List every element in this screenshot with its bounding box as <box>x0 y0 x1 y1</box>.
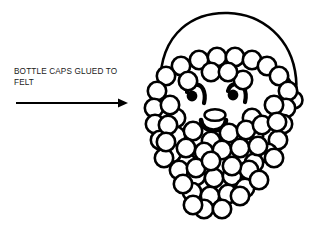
bottle-cap <box>231 187 249 205</box>
bottle-cap <box>231 139 249 157</box>
bottle-cap <box>265 96 283 114</box>
bottle-cap <box>279 82 297 100</box>
bottle-cap <box>184 196 202 214</box>
bottle-cap <box>184 122 202 140</box>
bottle-cap <box>202 152 220 170</box>
annotation-label: BOTTLE CAPS GLUED TO FELT <box>14 66 144 88</box>
bottle-cap <box>219 63 237 81</box>
bottle-cap <box>223 157 241 175</box>
bottle-cap <box>161 96 179 114</box>
santa-figure <box>0 0 323 230</box>
bottle-cap <box>179 72 197 90</box>
bottle-cap <box>250 171 268 189</box>
nose <box>205 109 226 121</box>
illustration-canvas: BOTTLE CAPS GLUED TO FELT <box>0 0 323 230</box>
bottle-cap <box>268 113 286 131</box>
bottle-cap <box>265 149 283 167</box>
bottle-cap <box>159 116 177 134</box>
bottle-cap <box>174 175 192 193</box>
bottle-cap <box>213 200 231 218</box>
bottle-cap <box>202 63 220 81</box>
bottle-cap <box>249 137 267 155</box>
bottle-cap <box>205 169 223 187</box>
bottle-cap <box>177 139 195 157</box>
bottle-cap <box>157 133 175 151</box>
